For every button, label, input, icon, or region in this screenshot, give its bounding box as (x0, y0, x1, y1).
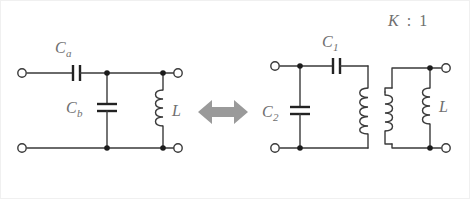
label-capacitor-cb: C (66, 99, 77, 116)
label-capacitor-c1: C (322, 33, 333, 50)
right-circuit: C 1 C 2 L K : 1 (262, 12, 450, 152)
junction-node-r-bottom-right (427, 145, 433, 151)
junction-node-bottom-mid (104, 145, 110, 151)
junction-node-r-top-left (297, 63, 303, 69)
terminal-output-top[interactable] (174, 69, 182, 77)
wire-secondary-top-corner (385, 88, 392, 92)
circuit-diagram-figure: C a C b L (0, 0, 470, 199)
equivalence-arrow (198, 100, 248, 124)
wire-secondary-bottom-corner (385, 131, 392, 144)
wire-secondary-to-l-top (392, 68, 430, 88)
terminal-input-bottom[interactable] (18, 144, 26, 152)
inductor-l-right-coil (423, 88, 431, 124)
terminal-output-bottom[interactable] (174, 144, 182, 152)
left-circuit: C a C b L (18, 39, 182, 152)
junction-node-top-right (160, 70, 166, 76)
transformer-secondary-coil (385, 95, 393, 131)
junction-node-top-mid (104, 70, 110, 76)
terminal-r-input-bottom[interactable] (271, 144, 279, 152)
label-capacitor-c2: C (262, 103, 273, 120)
transformer-primary-coil (360, 88, 368, 134)
terminal-input-top[interactable] (18, 69, 26, 77)
label-inductor-l-right: L (438, 98, 448, 115)
label-capacitor-c1-subscript: 1 (333, 41, 339, 53)
ratio-one: 1 (419, 12, 427, 29)
label-transformer-ratio: K : 1 (387, 12, 427, 29)
double-headed-arrow-icon (198, 100, 248, 124)
junction-node-r-top-right (427, 65, 433, 71)
label-capacitor-ca: C (55, 39, 66, 56)
terminal-r-output-bottom[interactable] (442, 144, 450, 152)
label-capacitor-c2-subscript: 2 (273, 111, 279, 123)
ratio-k: K (387, 12, 400, 29)
label-capacitor-ca-subscript: a (66, 47, 72, 59)
junction-node-bottom-right (160, 145, 166, 151)
wire-secondary-to-l-bottom (392, 144, 430, 148)
diagram-canvas: C a C b L (0, 0, 470, 199)
label-capacitor-cb-subscript: b (77, 107, 83, 119)
terminal-r-output-top[interactable] (442, 64, 450, 72)
label-inductor-l-left: L (171, 102, 181, 119)
terminal-r-input-top[interactable] (271, 62, 279, 70)
junction-node-r-bottom-left (297, 145, 303, 151)
inductor-l-coil (156, 90, 164, 126)
ratio-separator: : (407, 12, 411, 29)
